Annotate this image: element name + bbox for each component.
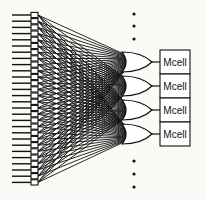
input-buffer	[31, 37, 38, 42]
input-buffer	[31, 68, 38, 73]
input-buffer	[31, 43, 38, 48]
mcell-box: Mcell	[160, 74, 190, 98]
or-gate-icon	[122, 124, 152, 144]
pla-macrocell-diagram: McellMcellMcellMcell	[0, 0, 206, 200]
or-gate-icon	[122, 76, 152, 96]
ellipsis-dot	[132, 172, 135, 175]
input-buffer	[31, 149, 38, 154]
mcell-box: Mcell	[160, 122, 190, 146]
input-buffer	[31, 56, 38, 61]
mcell-label: Mcell	[163, 105, 186, 116]
input-buffer	[31, 93, 38, 98]
input-buffer	[31, 19, 38, 24]
input-buffer	[31, 118, 38, 123]
input-buffer	[31, 167, 38, 172]
input-buffer	[31, 74, 38, 79]
input-buffer	[31, 105, 38, 110]
input-buffer	[31, 12, 38, 17]
input-buffer	[31, 180, 38, 185]
product-term-array	[38, 15, 126, 182]
ellipsis-dot	[132, 159, 135, 162]
input-buffer	[31, 99, 38, 104]
macrocells: McellMcellMcellMcell	[160, 50, 190, 146]
mcell-box: Mcell	[160, 50, 190, 74]
ellipsis-dot	[132, 37, 135, 40]
input-lines	[12, 15, 31, 182]
input-buffer	[31, 25, 38, 30]
input-buffer	[31, 174, 38, 179]
input-buffer	[31, 143, 38, 148]
ellipsis-dot	[132, 12, 135, 15]
ellipsis-dot	[132, 185, 135, 188]
input-buffer	[31, 124, 38, 129]
input-buffer	[31, 155, 38, 160]
input-buffer	[31, 112, 38, 117]
or-gate-icon	[122, 100, 152, 120]
input-buffer	[31, 161, 38, 166]
input-buffers	[31, 12, 38, 185]
mcell-label: Mcell	[163, 81, 186, 92]
mcell-label: Mcell	[163, 57, 186, 68]
input-buffer	[31, 50, 38, 55]
or-gate-icon	[122, 52, 152, 72]
input-buffer	[31, 81, 38, 86]
input-buffer	[31, 136, 38, 141]
input-buffer	[31, 31, 38, 36]
input-buffer	[31, 130, 38, 135]
or-gates	[122, 52, 160, 144]
ellipsis-dot	[132, 24, 135, 27]
mcell-label: Mcell	[163, 129, 186, 140]
input-buffer	[31, 62, 38, 67]
mcell-box: Mcell	[160, 98, 190, 122]
input-buffer	[31, 87, 38, 92]
